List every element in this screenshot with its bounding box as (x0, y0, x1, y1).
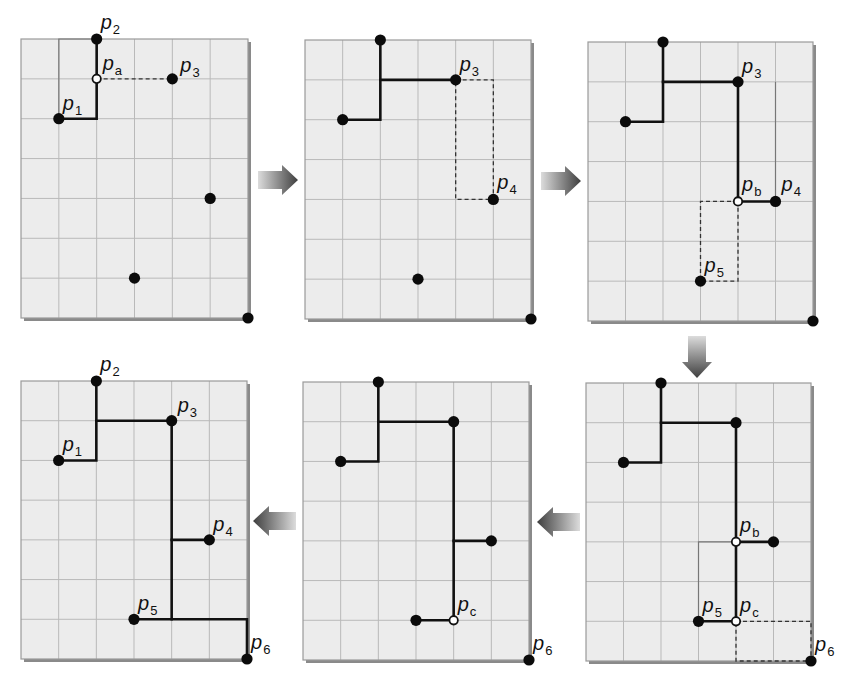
terminal-point (523, 654, 534, 665)
terminal-point (770, 196, 781, 207)
terminal-point (732, 76, 743, 87)
terminal-point (241, 653, 252, 664)
terminal-point (53, 455, 64, 466)
terminal-point (91, 375, 102, 386)
terminal-point (53, 113, 64, 124)
terminal-point (450, 74, 461, 85)
terminal-point (166, 415, 177, 426)
steiner-point (734, 197, 742, 205)
terminal-point (410, 615, 421, 626)
terminal-point (412, 274, 423, 285)
point-label-p2: p2 (100, 11, 120, 37)
terminal-point (242, 312, 253, 323)
terminal-point (657, 36, 668, 47)
terminal-point (337, 114, 348, 125)
terminal-point (618, 457, 629, 468)
panel-step-3: p3pbp4p5 (588, 36, 819, 326)
steiner-point (449, 616, 457, 624)
terminal-point (375, 34, 386, 45)
point-label-p6: p6 (250, 631, 270, 657)
panel-step-1: p2pap3p1 (21, 11, 254, 324)
arrow-step1-to-step2-icon (258, 165, 298, 195)
terminal-point (448, 416, 459, 427)
point-label-p6: p6 (814, 633, 834, 659)
terminal-point (693, 616, 704, 627)
panel-step-6: p2p3p1p4p5p6 (21, 353, 270, 665)
terminal-point (805, 655, 816, 666)
panel-step-2: p3p4 (305, 34, 537, 324)
terminal-point (167, 73, 178, 84)
terminal-point (204, 534, 215, 545)
terminal-point (525, 313, 536, 324)
terminal-point (91, 33, 102, 44)
terminal-point (335, 456, 346, 467)
terminal-point (373, 376, 384, 387)
terminal-point (768, 536, 779, 547)
panel-step-5: pcp6 (303, 376, 552, 665)
terminal-point (129, 273, 140, 284)
terminal-point (730, 417, 741, 428)
panel-step-4: pbp5pcp6 (586, 377, 834, 666)
terminal-point (488, 194, 499, 205)
terminal-point (205, 193, 216, 204)
point-label-p6: p6 (532, 632, 552, 658)
arrow-step2-to-step3-icon (541, 166, 581, 196)
arrow-step3-to-step4-icon (682, 336, 712, 378)
terminal-point (128, 614, 139, 625)
point-label-p2: p2 (99, 353, 119, 379)
arrow-step4-to-step5-icon (537, 507, 580, 537)
steiner-point (732, 617, 740, 625)
steiner-tree-diagram: p2pap3p1p3p4p3pbp4p5pbp5pcp6pcp6p2p3p1p4… (0, 0, 849, 686)
steiner-point (732, 538, 740, 546)
terminal-point (620, 116, 631, 127)
terminal-point (695, 276, 706, 287)
arrow-step5-to-step6-icon (253, 506, 296, 536)
terminal-point (807, 315, 818, 326)
terminal-point (655, 377, 666, 388)
terminal-point (486, 535, 497, 546)
steiner-point (92, 75, 100, 83)
panels: p2pap3p1p3p4p3pbp4p5pbp5pcp6pcp6p2p3p1p4… (21, 11, 834, 667)
